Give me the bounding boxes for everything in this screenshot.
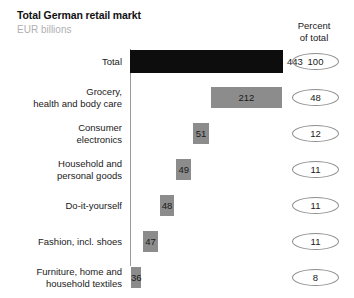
- bar-value-label: 48: [159, 201, 176, 211]
- chart-row: Furniture, home andhousehold textiles368: [0, 266, 354, 290]
- row-label-line1: Consumer: [8, 122, 122, 134]
- percent-of-total-badge: 8: [292, 269, 339, 286]
- row-label-line1: Total: [8, 56, 122, 68]
- chart-plot-area: Total443100Grocery,health and body care2…: [0, 48, 354, 283]
- bar-value-label: 212: [210, 93, 283, 103]
- row-label-line1: Furniture, home and: [8, 266, 122, 278]
- row-label: Grocery,health and body care: [8, 86, 122, 109]
- bar-value-label: 49: [175, 165, 192, 175]
- row-label: Total: [8, 56, 122, 68]
- row-label: Fashion, incl. shoes: [8, 236, 122, 248]
- row-label-line1: Grocery,: [8, 86, 122, 98]
- row-label-line1: Household and: [8, 158, 122, 170]
- percent-of-total-badge: 11: [292, 161, 339, 178]
- percent-of-total-badge: 11: [292, 233, 339, 250]
- row-label-line2: electronics: [8, 134, 122, 146]
- chart-row: Grocery,health and body care21248: [0, 86, 354, 110]
- percent-of-total-badge: 12: [292, 125, 339, 142]
- row-label: Consumerelectronics: [8, 122, 122, 145]
- percent-column-header: Percent of total: [283, 20, 345, 43]
- percent-of-total-badge: 11: [292, 197, 339, 214]
- percent-header-line1: Percent: [283, 20, 345, 32]
- percent-of-total-badge: 48: [292, 89, 339, 106]
- total-bar: [130, 50, 283, 73]
- row-label: Household andpersonal goods: [8, 158, 122, 181]
- chart-row: Consumerelectronics5112: [0, 122, 354, 146]
- bar-value-label: 47: [142, 237, 158, 247]
- bar-value-label: 36: [130, 273, 142, 283]
- chart-subtitle: EUR billions: [17, 23, 247, 36]
- row-label-line2: health and body care: [8, 98, 122, 110]
- chart-row: Household andpersonal goods4911: [0, 158, 354, 182]
- row-label-line2: personal goods: [8, 170, 122, 182]
- chart-header: Total German retail markt EUR billions: [17, 9, 247, 36]
- bar-value-label: 51: [192, 129, 210, 139]
- chart-row: Fashion, incl. shoes4711: [0, 230, 354, 254]
- row-label: Do-it-yourself: [8, 200, 122, 212]
- chart-row: Total443100: [0, 50, 354, 74]
- chart-title: Total German retail markt: [17, 9, 247, 22]
- percent-header-line2: of total: [283, 32, 345, 44]
- row-label-line2: household textiles: [8, 278, 122, 290]
- row-label: Furniture, home andhousehold textiles: [8, 266, 122, 289]
- row-label-line1: Fashion, incl. shoes: [8, 236, 122, 248]
- chart-row: Do-it-yourself4811: [0, 194, 354, 218]
- row-label-line1: Do-it-yourself: [8, 200, 122, 212]
- percent-of-total-badge: 100: [292, 53, 339, 70]
